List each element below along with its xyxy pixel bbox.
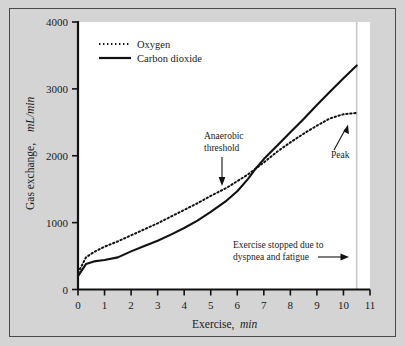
exercise-stopped-line2: dyspnea and fatigue [233, 252, 309, 262]
y-axis-title: Gas exchange, mL/min [24, 97, 37, 210]
anaerobic-threshold-line2: threshold [204, 143, 240, 153]
x-tick-label: 4 [181, 299, 187, 311]
x-tick-label: 1 [102, 299, 108, 311]
y-axis-title-units: mL/min [24, 97, 36, 132]
x-tick-label: 2 [128, 299, 134, 311]
y-tick-label: 2000 [46, 150, 69, 162]
x-axis-title-units: min [240, 318, 258, 330]
y-axis-ticks: 01000200030004000 [46, 16, 78, 296]
x-tick-label: 9 [314, 299, 320, 311]
x-tick-label: 3 [155, 299, 161, 311]
legend-label-oxygen: Oxygen [137, 39, 171, 50]
x-tick-label: 10 [338, 299, 350, 311]
peak-label: Peak [331, 150, 350, 160]
anaerobic-threshold-line1: Anaerobic [204, 131, 244, 141]
x-axis-title-main: Exercise, [192, 318, 235, 331]
x-tick-label: 7 [261, 299, 267, 311]
x-axis-ticks: 01234567891011 [75, 290, 375, 311]
x-axis-title: Exercise, min [192, 318, 258, 331]
y-tick-label: 4000 [46, 16, 69, 28]
y-tick-label: 0 [63, 284, 69, 296]
y-axis-title-main: Gas exchange, [24, 143, 37, 210]
plot-area-background [78, 22, 370, 289]
chart-figure: 01000200030004000 01234567891011 Oxygen … [0, 0, 405, 346]
x-tick-label: 11 [365, 299, 376, 311]
x-tick-label: 6 [235, 299, 241, 311]
y-tick-label: 3000 [46, 83, 69, 95]
y-tick-label: 1000 [46, 217, 69, 229]
x-tick-label: 0 [75, 299, 81, 311]
x-tick-label: 8 [288, 299, 294, 311]
x-tick-label: 5 [208, 299, 214, 311]
exercise-stopped-line1: Exercise stopped due to [233, 240, 324, 250]
legend-label-carbon-dioxide: Carbon dioxide [137, 53, 202, 64]
gas-exchange-line-chart: 01000200030004000 01234567891011 Oxygen … [0, 0, 405, 346]
